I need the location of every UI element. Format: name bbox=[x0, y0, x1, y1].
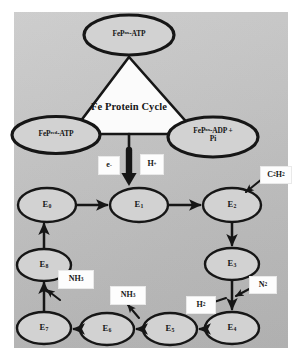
electron-proton-arrow bbox=[121, 150, 136, 186]
proton-label: H+ bbox=[140, 154, 164, 175]
node-label-E8: E8 bbox=[29, 260, 59, 269]
node-label-E0: E0 bbox=[32, 200, 62, 209]
node-label-E7: E7 bbox=[29, 323, 59, 332]
node-label-E2: E2 bbox=[217, 200, 247, 209]
node-label-fep-red-atp: FePred-ATP bbox=[12, 130, 100, 138]
electron-label: e- bbox=[98, 156, 120, 175]
substrate-label-n2: N2 bbox=[249, 276, 277, 294]
arrow-nh3-lower-out bbox=[128, 305, 139, 318]
figure-canvas: FePox-ATP FePred-ATP FePox-ADP +Pi Fe Pr… bbox=[0, 0, 308, 363]
arrow-nh3-upper-out bbox=[47, 290, 60, 300]
product-label-nh3-lower: NH3 bbox=[110, 286, 146, 305]
substrate-label-c2h2: C2H2 bbox=[260, 166, 292, 184]
node-label-E3: E3 bbox=[217, 259, 247, 268]
node-label-E1: E1 bbox=[124, 200, 154, 209]
node-label-E4: E4 bbox=[217, 323, 247, 332]
fe-protein-cycle-label: Fe Protein Cycle bbox=[64, 101, 194, 112]
node-label-E6: E6 bbox=[92, 324, 122, 333]
node-label-E5: E5 bbox=[155, 324, 185, 333]
node-label-fep-ox-adp-pi: FePox-ADP +Pi bbox=[168, 127, 258, 143]
node-label-fep-ox-atp: FePox-ATP bbox=[84, 30, 174, 38]
product-label-h2: H2 bbox=[186, 296, 216, 314]
product-label-nh3-upper: NH3 bbox=[58, 270, 94, 289]
